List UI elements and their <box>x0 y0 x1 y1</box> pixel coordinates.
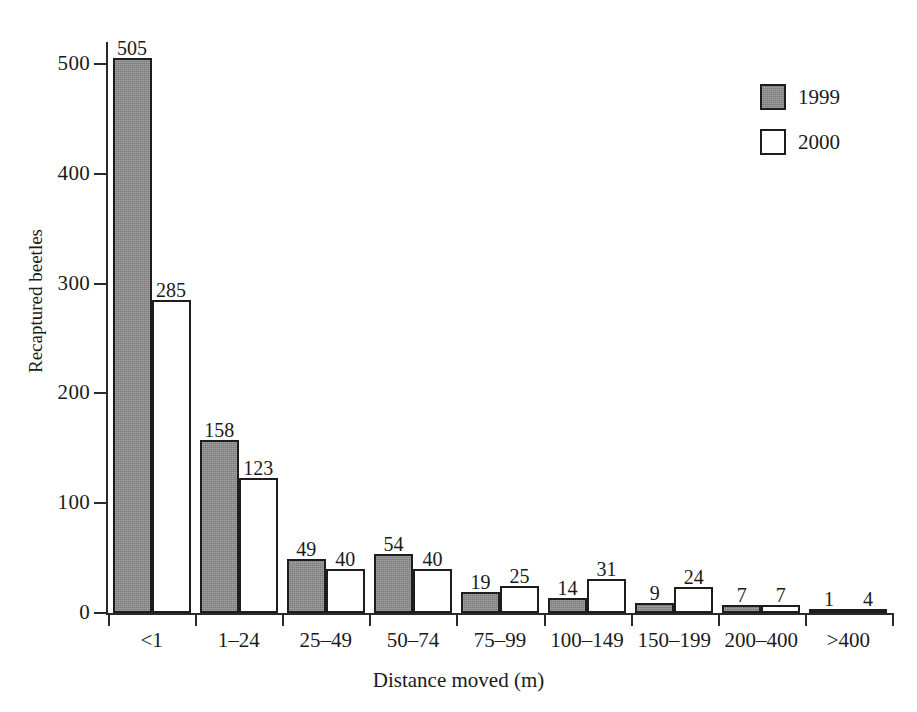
x-axis-tick <box>631 613 633 626</box>
bar-value-label: 31 <box>597 559 617 579</box>
x-axis-tick-label: <1 <box>108 628 195 652</box>
y-axis-tick <box>94 502 106 504</box>
bar-1999-75–99[interactable]: 19 <box>461 592 500 613</box>
bar-value-label: 505 <box>117 38 147 58</box>
bar-group: 924 <box>631 42 718 613</box>
y-axis-tick-label: 200 <box>4 382 90 403</box>
x-axis-tick <box>282 613 284 626</box>
x-axis-tick-label: 75–99 <box>456 628 543 652</box>
bar-value-label: 54 <box>383 534 403 554</box>
legend: 19992000 <box>760 84 840 174</box>
bar-value-label: 9 <box>650 583 660 603</box>
bar-group: 1431 <box>544 42 631 613</box>
y-axis-title: Recaptured beetles <box>25 191 47 411</box>
bar-1999-150–199[interactable]: 9 <box>635 603 674 613</box>
bar-value-label: 24 <box>684 567 704 587</box>
bar-2000-100–149[interactable]: 31 <box>587 579 626 613</box>
y-axis-tick <box>94 392 106 394</box>
bar-value-label: 158 <box>204 420 234 440</box>
bar-value-label: 19 <box>470 572 490 592</box>
bar-2000->400[interactable]: 4 <box>848 609 887 613</box>
x-axis-tick <box>195 613 197 626</box>
x-axis-tick <box>369 613 371 626</box>
x-axis-tick-label: >400 <box>805 628 892 652</box>
x-axis-tick-label: 25–49 <box>282 628 369 652</box>
x-axis-tick-label: 1–24 <box>195 628 282 652</box>
bar-1999-<1[interactable]: 505 <box>113 58 152 613</box>
bar-value-label: 7 <box>737 585 747 605</box>
bar-value-label: 14 <box>558 578 578 598</box>
bar-2000-200–400[interactable]: 7 <box>761 605 800 613</box>
bar-group: 505285 <box>108 42 195 613</box>
bar-2000-50–74[interactable]: 40 <box>413 569 452 613</box>
legend-item-2000[interactable]: 2000 <box>760 129 840 155</box>
bar-value-label: 1 <box>824 589 834 609</box>
bar-group: 1925 <box>456 42 543 613</box>
x-axis-tick <box>108 613 110 626</box>
bar-value-label: 40 <box>422 549 442 569</box>
y-axis-tick-label: 500 <box>4 53 90 74</box>
y-axis-tick <box>94 63 106 65</box>
bar-2000-<1[interactable]: 285 <box>152 300 191 613</box>
bar-1999->400[interactable]: 1 <box>809 609 848 613</box>
bar-group: 158123 <box>195 42 282 613</box>
bar-value-label: 40 <box>335 549 355 569</box>
x-axis-tick-label: 150–199 <box>631 628 718 652</box>
legend-swatch-white-outlined-square <box>760 129 786 155</box>
bar-1999-50–74[interactable]: 54 <box>374 554 413 613</box>
y-axis-tick <box>94 283 106 285</box>
bar-2000-75–99[interactable]: 25 <box>500 586 539 613</box>
x-axis-tick-label: 200–400 <box>718 628 805 652</box>
legend-label: 1999 <box>798 87 840 108</box>
bar-value-label: 49 <box>296 539 316 559</box>
legend-swatch-gray-filled-square <box>760 84 786 110</box>
x-axis-tick <box>805 613 807 626</box>
bar-group: 4940 <box>282 42 369 613</box>
bar-value-label: 123 <box>243 458 273 478</box>
y-axis-tick-label: 100 <box>4 492 90 513</box>
legend-item-1999[interactable]: 1999 <box>760 84 840 110</box>
x-axis-line <box>106 613 892 615</box>
x-axis-tick <box>456 613 458 626</box>
bar-value-label: 7 <box>776 585 786 605</box>
y-axis-tick <box>94 173 106 175</box>
bar-1999-100–149[interactable]: 14 <box>548 598 587 613</box>
bar-1999-1–24[interactable]: 158 <box>200 440 239 613</box>
legend-label: 2000 <box>798 132 840 153</box>
bar-1999-25–49[interactable]: 49 <box>287 559 326 613</box>
x-axis-title: Distance moved (m) <box>0 668 917 693</box>
x-axis-tick <box>892 613 894 626</box>
bar-value-label: 4 <box>863 589 873 609</box>
bar-value-label: 25 <box>509 566 529 586</box>
bar-chart: Recaptured beetles 0100200300400500 5052… <box>0 0 917 712</box>
bar-2000-1–24[interactable]: 123 <box>239 478 278 613</box>
bar-2000-25–49[interactable]: 40 <box>326 569 365 613</box>
y-axis-tick-label: 0 <box>4 602 90 623</box>
bar-value-label: 285 <box>156 280 186 300</box>
x-axis-tick-label: 50–74 <box>369 628 456 652</box>
y-axis-tick-label: 300 <box>4 273 90 294</box>
bar-2000-150–199[interactable]: 24 <box>674 587 713 613</box>
x-axis-tick <box>544 613 546 626</box>
y-axis-tick-label: 400 <box>4 163 90 184</box>
y-axis-tick <box>94 612 106 614</box>
x-axis-tick-label: 100–149 <box>544 628 631 652</box>
bar-1999-200–400[interactable]: 7 <box>722 605 761 613</box>
x-axis-tick <box>718 613 720 626</box>
bar-group: 5440 <box>369 42 456 613</box>
